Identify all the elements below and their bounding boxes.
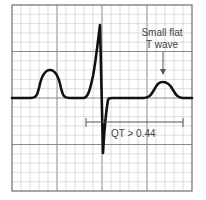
- qt-interval-bracket: QT > 0.44: [86, 118, 183, 139]
- qt-interval-label: QT > 0.44: [111, 128, 156, 139]
- annotation-line-1: Small flat: [141, 27, 182, 38]
- ecg-strip-diagram: Small flat T wave QT > 0.44: [0, 0, 206, 200]
- annotation-line-2: T wave: [146, 39, 178, 50]
